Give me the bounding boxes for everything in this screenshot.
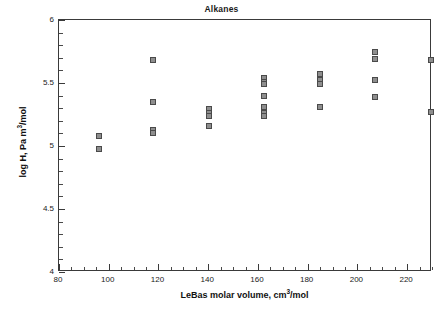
y-axis-title-tail: /mol [18, 106, 28, 125]
data-point [96, 146, 102, 152]
x-tick-label: 140 [185, 275, 229, 284]
y-tick-minor [59, 58, 63, 59]
y-tick-major [59, 272, 65, 273]
x-tick-major [357, 264, 358, 270]
y-tick-minor [59, 247, 63, 248]
y-tick-minor [59, 33, 63, 34]
y-tick-minor [59, 171, 63, 172]
x-tick-minor [84, 267, 85, 271]
x-tick-minor [382, 267, 383, 271]
y-tick-minor [59, 96, 63, 97]
y-tick-minor [59, 133, 63, 134]
x-tick-minor [183, 267, 184, 271]
data-point [372, 49, 378, 55]
data-point [150, 130, 156, 136]
x-tick-minor [146, 267, 147, 271]
x-tick-minor [370, 267, 371, 271]
y-tick-minor [59, 108, 63, 109]
data-point [428, 109, 434, 115]
x-axis-title-text: LeBas molar volume, cm [180, 290, 286, 300]
x-tick-minor [333, 267, 334, 271]
x-tick-major [109, 264, 110, 270]
x-axis-title-tail: /mol [290, 290, 309, 300]
x-tick-major [407, 264, 408, 270]
x-tick-minor [134, 267, 135, 271]
data-point [206, 113, 212, 119]
y-tick-major [59, 209, 65, 210]
data-point [372, 56, 378, 62]
x-tick-minor [221, 267, 222, 271]
data-point [428, 57, 434, 63]
x-tick-minor [171, 267, 172, 271]
data-point [317, 104, 323, 110]
data-point [372, 77, 378, 83]
x-tick-minor [395, 267, 396, 271]
x-tick-minor [96, 267, 97, 271]
y-axis-title-text: log H, Pa m [18, 129, 28, 178]
y-axis-title: log H, Pa m3/mol [16, 16, 30, 268]
y-tick-minor [59, 70, 63, 71]
y-tick-minor [59, 184, 63, 185]
y-tick-minor [59, 159, 63, 160]
data-point [206, 123, 212, 129]
x-tick-minor [432, 267, 433, 271]
data-point [317, 71, 323, 77]
plot-area [58, 19, 431, 271]
x-tick-minor [121, 267, 122, 271]
chart-title: Alkanes [0, 4, 443, 14]
x-tick-minor [233, 267, 234, 271]
x-tick-minor [196, 267, 197, 271]
data-point [96, 133, 102, 139]
x-tick-label: 160 [235, 275, 279, 284]
y-tick-minor [59, 222, 63, 223]
y-tick-minor [59, 234, 63, 235]
y-tick-minor [59, 121, 63, 122]
x-tick-minor [270, 267, 271, 271]
x-tick-label: 180 [285, 275, 329, 284]
scatter-points-layer [59, 20, 430, 270]
y-tick-major [59, 20, 65, 21]
data-point [150, 99, 156, 105]
x-tick-label: 120 [135, 275, 179, 284]
data-point [317, 81, 323, 87]
x-tick-major [208, 264, 209, 270]
y-tick-minor [59, 196, 63, 197]
x-tick-minor [295, 267, 296, 271]
x-tick-minor [246, 267, 247, 271]
x-tick-label: 100 [86, 275, 130, 284]
x-tick-major [59, 264, 60, 270]
data-point [261, 104, 267, 110]
x-tick-major [308, 264, 309, 270]
x-tick-minor [320, 267, 321, 271]
figure-container: Alkanes 44.555.56 8010012014016018020022… [0, 0, 443, 319]
x-tick-minor [283, 267, 284, 271]
y-axis-title-wrapper: log H, Pa m3/mol [16, 16, 30, 268]
x-tick-major [158, 264, 159, 270]
x-axis-title: LeBas molar volume, cm3/mol [58, 290, 431, 300]
x-tick-minor [345, 267, 346, 271]
x-tick-minor [71, 267, 72, 271]
data-point [372, 94, 378, 100]
y-tick-minor [59, 259, 63, 260]
y-axis-title-exponent: 3 [16, 125, 23, 129]
x-axis-tick-labels: 80100120140160180200220 [58, 275, 431, 289]
x-tick-label: 80 [36, 275, 80, 284]
x-tick-label: 200 [334, 275, 378, 284]
data-point [261, 113, 267, 119]
x-tick-major [258, 264, 259, 270]
y-tick-minor [59, 45, 63, 46]
data-point [261, 93, 267, 99]
data-point [150, 57, 156, 63]
data-point [261, 81, 267, 87]
x-tick-label: 220 [384, 275, 428, 284]
x-tick-minor [420, 267, 421, 271]
y-tick-major [59, 146, 65, 147]
y-tick-major [59, 83, 65, 84]
